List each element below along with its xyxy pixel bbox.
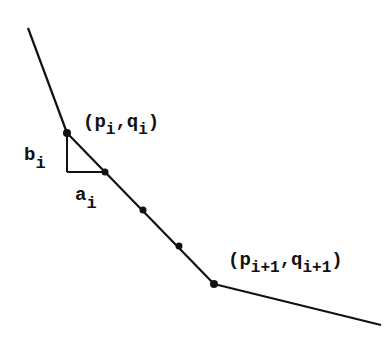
label-pi1-qi1: (pi+1,qi+1) [228,249,343,277]
diagram-canvas: (pi,qi) bi ai (pi+1,qi+1) [0,0,392,341]
piecewise-linear-curve [28,28,381,325]
point-subdivision-3 [176,243,183,250]
point-vertex-i-plus-1 [210,280,218,288]
label-b-i: bi [24,144,46,173]
point-vertex-i [63,129,71,137]
point-subdivision-1 [102,169,109,176]
point-subdivision-2 [140,207,147,214]
label-pi-qi: (pi,qi) [83,111,159,139]
label-a-i: ai [75,184,97,213]
